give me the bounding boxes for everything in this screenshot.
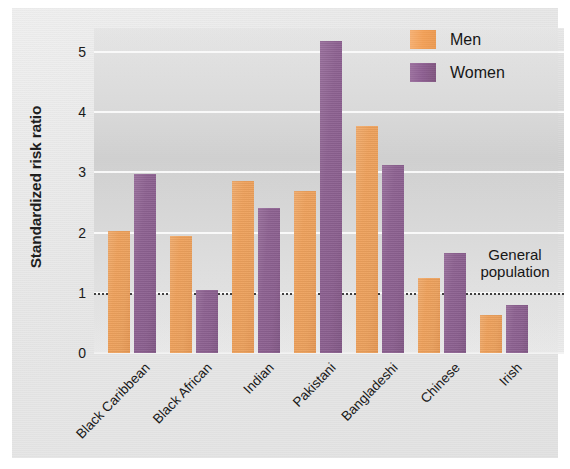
bar-women-irish (506, 305, 528, 353)
bar-women-indian (258, 208, 280, 353)
bar-men-indian (232, 181, 254, 353)
x-tick-label-bangladeshi: Bangladeshi (338, 360, 400, 424)
legend-swatch-men-icon (410, 30, 436, 49)
x-tick-label-irish: Irish (496, 360, 525, 389)
scanned-figure-panel: Standardized risk ratio 012345 Black Car… (12, 8, 558, 458)
x-tick-label-black-caribbean: Black Caribbean (73, 360, 153, 442)
annotation-line-2: population (460, 263, 570, 280)
bar-men-black-caribbean (108, 231, 130, 353)
annotation-line-1: General (460, 246, 570, 263)
y-tick-label-2: 2 (78, 225, 86, 241)
legend-swatch-women-icon (410, 63, 436, 82)
bar-women-bangladeshi (382, 165, 404, 353)
bar-men-black-african (170, 236, 192, 353)
bar-group (108, 28, 156, 353)
bar-men-pakistani (294, 191, 316, 354)
bar-group (294, 28, 342, 353)
x-tick-label-pakistani: Pakistani (290, 360, 339, 410)
general-population-annotation: General population (460, 246, 570, 281)
x-tick-label-black-african: Black African (150, 360, 215, 427)
y-tick-label-4: 4 (78, 104, 86, 120)
chart-screenshot: Standardized risk ratio 012345 Black Car… (0, 0, 570, 469)
x-tick-label-chinese: Chinese (418, 360, 463, 406)
bar-group (232, 28, 280, 353)
bar-women-pakistani (320, 41, 342, 353)
bar-group (170, 28, 218, 353)
legend-label-men: Men (450, 31, 481, 49)
bar-men-irish (480, 315, 502, 353)
bar-men-bangladeshi (356, 126, 378, 354)
bar-group (356, 28, 404, 353)
y-tick-label-5: 5 (78, 44, 86, 60)
bar-men-chinese (418, 278, 440, 353)
y-tick-label-3: 3 (78, 164, 86, 180)
legend-item-women: Women (410, 63, 505, 82)
legend: Men Women (410, 30, 505, 96)
x-tick-label-indian: Indian (240, 360, 276, 397)
bar-women-black-caribbean (134, 174, 156, 353)
y-tick-label-1: 1 (78, 285, 86, 301)
bar-women-black-african (196, 290, 218, 353)
legend-item-men: Men (410, 30, 505, 49)
y-tick-label-0: 0 (78, 345, 86, 361)
legend-label-women: Women (450, 64, 505, 82)
y-axis-title: Standardized risk ratio (27, 57, 45, 317)
